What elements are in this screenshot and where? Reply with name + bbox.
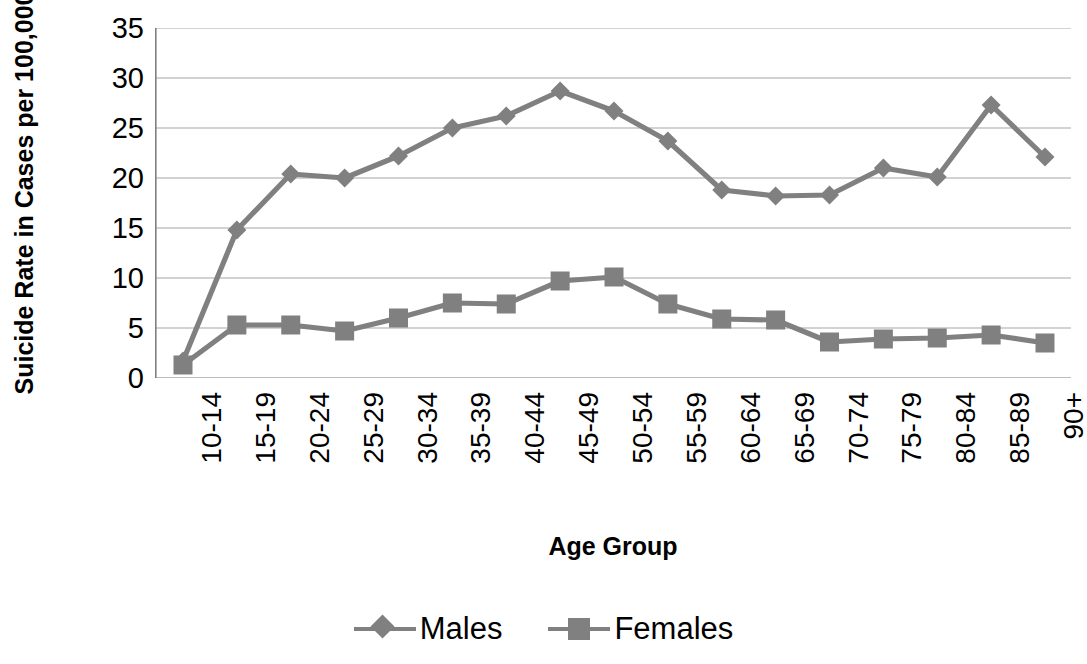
x-axis-title: Age Group (155, 532, 1071, 561)
x-tick-label: 60-64 (736, 392, 766, 532)
x-tick-label: 10-14 (197, 392, 227, 532)
chart-legend: MalesFemales (0, 612, 1087, 646)
data-point-marker (874, 159, 893, 178)
x-tick-label: 65-69 (790, 392, 820, 532)
legend-label: Females (614, 612, 733, 646)
legend-marker (568, 618, 590, 640)
data-point-marker (874, 330, 893, 349)
x-tick-label: 80-84 (951, 392, 981, 532)
legend-entry-males: Males (354, 612, 503, 646)
data-point-marker (335, 169, 354, 188)
x-axis-tick-labels: 10-1415-1920-2425-2930-3435-3940-4445-49… (155, 378, 1071, 528)
y-tick-label: 20 (48, 164, 144, 193)
x-tick-label: 20-24 (305, 392, 335, 532)
data-point-marker (497, 107, 516, 126)
y-tick-label: 5 (48, 314, 144, 343)
data-point-marker (766, 187, 785, 206)
x-tick-label: 55-59 (682, 392, 712, 532)
data-point-marker (443, 119, 462, 138)
data-point-marker (820, 186, 839, 205)
x-tick-label: 70-74 (844, 392, 874, 532)
x-tick-label: 90+ (1059, 392, 1087, 532)
y-tick-label: 15 (48, 214, 144, 243)
y-tick-label: 10 (48, 264, 144, 293)
data-point-marker (712, 310, 731, 329)
data-point-marker (982, 326, 1001, 345)
legend-marker (370, 614, 394, 638)
y-axis-tick-labels: 05101520253035 (48, 0, 144, 400)
data-point-marker (174, 356, 193, 375)
y-tick-label: 35 (48, 14, 144, 43)
x-tick-label: 15-19 (251, 392, 281, 532)
data-point-marker (227, 316, 246, 335)
x-tick-label: 40-44 (520, 392, 550, 532)
data-point-marker (1036, 334, 1055, 353)
data-point-marker (281, 316, 300, 335)
legend-label: Males (420, 612, 503, 646)
x-tick-label: 45-49 (574, 392, 604, 532)
legend-entry-females: Females (548, 612, 733, 646)
diamond-marker-icon (354, 614, 416, 644)
data-point-marker (443, 294, 462, 313)
x-tick-label: 25-29 (359, 392, 389, 532)
x-tick-label: 35-39 (466, 392, 496, 532)
x-tick-label: 75-79 (897, 392, 927, 532)
data-point-marker (658, 295, 677, 314)
data-point-marker (928, 329, 947, 348)
x-tick-label: 50-54 (628, 392, 658, 532)
series-line-females (183, 277, 1045, 365)
data-point-marker (551, 82, 570, 101)
square-marker-icon (548, 614, 610, 644)
data-point-marker (551, 272, 570, 291)
data-point-marker (389, 147, 408, 166)
suicide-rate-line-chart: Suicide Rate in Cases per 100,000 051015… (0, 0, 1087, 664)
data-point-marker (335, 322, 354, 341)
y-tick-label: 0 (48, 364, 144, 393)
series-females (174, 268, 1055, 375)
y-tick-label: 30 (48, 64, 144, 93)
x-tick-label: 30-34 (413, 392, 443, 532)
series-line-males (183, 91, 1045, 361)
y-axis-title: Suicide Rate in Cases per 100,000 (10, 0, 39, 395)
data-point-marker (766, 311, 785, 330)
data-point-marker (605, 268, 624, 287)
data-point-marker (820, 333, 839, 352)
plot-svg (155, 28, 1071, 378)
data-point-marker (389, 309, 408, 328)
data-point-marker (497, 295, 516, 314)
x-tick-label: 85-89 (1005, 392, 1035, 532)
y-tick-label: 25 (48, 114, 144, 143)
plot-area (155, 28, 1071, 378)
